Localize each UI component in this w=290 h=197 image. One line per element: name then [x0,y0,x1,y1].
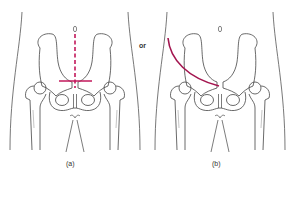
panel-b-pelvis [155,12,285,152]
panel-a-label: (a) [66,160,75,167]
pelvis-diagram [0,0,290,197]
or-connector-label: or [139,42,146,49]
panel-b-label: (b) [212,160,221,167]
panel-a-pelvis [10,12,140,152]
